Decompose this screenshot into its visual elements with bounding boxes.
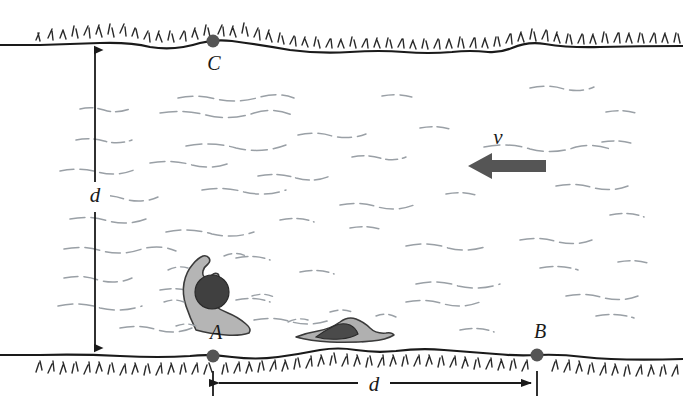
point-b-label: B — [534, 320, 546, 342]
point-c-marker: C — [207, 35, 222, 75]
distance-dimension-horizontal: d — [213, 370, 537, 396]
point-c-label: C — [207, 52, 221, 74]
distance-label-horizontal: d — [369, 372, 380, 396]
river-crossing-figure: d d v A B C — [0, 0, 683, 415]
point-a-label: A — [208, 321, 223, 343]
river-width-label-vertical: d — [90, 183, 101, 207]
velocity-label: v — [493, 125, 503, 149]
figure-canvas: d d v A B C — [0, 0, 683, 415]
swimmer-head — [195, 275, 229, 309]
